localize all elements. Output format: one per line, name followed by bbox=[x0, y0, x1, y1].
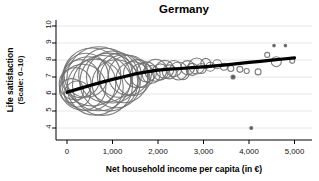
x-tick-label: 1,000 bbox=[103, 147, 123, 156]
chart-title: Germany bbox=[159, 3, 209, 15]
x-tick-label: 4,000 bbox=[239, 147, 259, 156]
y-tick-label: 5 bbox=[44, 107, 53, 112]
y-axis-label-line2: (Scale: 0–10) bbox=[16, 55, 25, 104]
data-dot bbox=[273, 44, 276, 47]
bubble bbox=[265, 52, 270, 57]
bubble-chart: 4567891001,0002,0003,0004,0005,000 Germa… bbox=[0, 0, 319, 181]
bubble bbox=[244, 69, 249, 74]
y-tick-label: 8 bbox=[44, 56, 53, 60]
y-tick-label: 9 bbox=[44, 39, 53, 43]
x-tick-label: 5,000 bbox=[285, 147, 305, 156]
x-axis-label: Net household income per capita (in €) bbox=[106, 164, 262, 174]
chart: 4567891001,0002,0003,0004,0005,000 Germa… bbox=[0, 0, 319, 181]
data-dot bbox=[231, 75, 235, 79]
x-tick-label: 0 bbox=[65, 147, 70, 156]
bubble bbox=[255, 69, 261, 75]
data-dot bbox=[250, 127, 253, 130]
x-tick-label: 3,000 bbox=[194, 147, 214, 156]
bubble bbox=[237, 66, 243, 72]
y-tick-label: 10 bbox=[44, 20, 53, 29]
x-tick-label: 2,000 bbox=[148, 147, 168, 156]
y-tick-label: 7 bbox=[44, 73, 53, 77]
y-axis-label-line1: Life satisfaction bbox=[5, 48, 15, 113]
y-tick-label: 4 bbox=[44, 124, 53, 129]
gridlines bbox=[56, 26, 312, 128]
data-dot bbox=[284, 44, 287, 47]
y-tick-label: 6 bbox=[44, 90, 53, 94]
bubble bbox=[228, 66, 234, 72]
bubble-layer bbox=[59, 44, 295, 129]
